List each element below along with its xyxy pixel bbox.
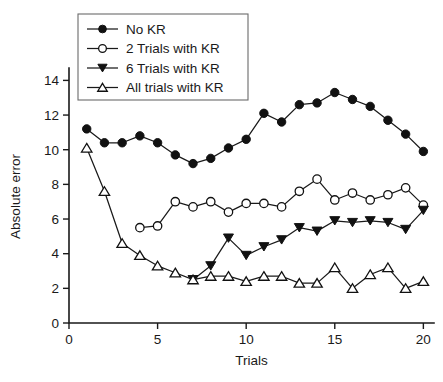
- x-axis-ticks: 05101520: [65, 323, 431, 347]
- marker-open-circle: [171, 197, 179, 205]
- marker-open-circle: [242, 199, 250, 207]
- marker-filled-circle: [419, 147, 427, 155]
- marker-open-circle: [260, 199, 268, 207]
- marker-filled-circle: [366, 102, 374, 110]
- marker-filled-circle: [331, 88, 339, 96]
- y-tick-label: 4: [51, 246, 59, 261]
- marker-open-circle: [384, 191, 392, 199]
- marker-filled-circle: [83, 125, 91, 133]
- marker-filled-circle: [384, 116, 392, 124]
- y-axis-title: Absolute error: [8, 154, 23, 239]
- marker-open-circle: [153, 222, 161, 230]
- x-tick-label: 0: [65, 332, 73, 347]
- legend-item-label: 6 Trials with KR: [126, 61, 220, 76]
- marker-filled-circle: [99, 25, 107, 33]
- absolute-error-line-chart: 05101520 02468101214 Trials Absolute err…: [0, 0, 443, 382]
- marker-open-triangle-up: [383, 263, 393, 272]
- marker-open-triangle-up: [365, 270, 375, 279]
- x-axis-title: Trials: [235, 353, 268, 368]
- x-tick-label: 5: [154, 332, 162, 347]
- marker-open-triangle-up: [135, 251, 145, 260]
- y-tick-label: 0: [51, 316, 59, 331]
- marker-open-circle: [401, 184, 409, 192]
- marker-filled-circle: [118, 139, 126, 147]
- marker-filled-triangle-down: [277, 236, 287, 244]
- marker-filled-triangle-down: [259, 243, 269, 251]
- marker-open-circle: [366, 196, 374, 204]
- marker-filled-circle: [277, 118, 285, 126]
- marker-filled-triangle-down: [312, 227, 322, 235]
- y-axis-ticks: 02468101214: [44, 73, 69, 331]
- y-tick-label: 6: [51, 212, 59, 227]
- marker-filled-circle: [207, 154, 215, 162]
- marker-open-triangle-up: [152, 261, 162, 270]
- marker-open-triangle-up: [330, 263, 340, 272]
- marker-filled-circle: [153, 139, 161, 147]
- y-tick-label: 14: [44, 73, 60, 88]
- y-tick-label: 10: [44, 143, 59, 158]
- marker-open-circle: [136, 223, 144, 231]
- marker-open-triangle-up: [117, 239, 127, 248]
- marker-open-circle: [224, 208, 232, 216]
- marker-open-circle: [348, 189, 356, 197]
- marker-open-circle: [277, 203, 285, 211]
- marker-open-triangle-up: [418, 277, 428, 286]
- y-tick-label: 8: [51, 177, 59, 192]
- marker-filled-circle: [100, 139, 108, 147]
- chart-figure: 05101520 02468101214 Trials Absolute err…: [0, 0, 443, 382]
- legend-item-label: 2 Trials with KR: [126, 41, 220, 56]
- marker-filled-circle: [401, 130, 409, 138]
- marker-filled-triangle-down: [401, 225, 411, 233]
- marker-filled-triangle-down: [241, 251, 251, 259]
- marker-open-triangle-up: [400, 284, 410, 293]
- marker-open-circle: [99, 45, 107, 53]
- marker-filled-circle: [348, 95, 356, 103]
- series-4: [82, 143, 429, 292]
- marker-open-circle: [313, 175, 321, 183]
- marker-filled-circle: [189, 159, 197, 167]
- x-tick-label: 20: [416, 332, 431, 347]
- marker-filled-circle: [295, 100, 303, 108]
- legend-item-label: No KR: [126, 22, 166, 37]
- marker-open-circle: [331, 196, 339, 204]
- x-tick-label: 15: [327, 332, 342, 347]
- y-tick-label: 2: [51, 281, 59, 296]
- chart-legend: No KR2 Trials with KR6 Trials with KRAll…: [78, 14, 248, 100]
- marker-open-triangle-up: [82, 143, 92, 152]
- marker-filled-circle: [224, 144, 232, 152]
- marker-filled-circle: [242, 135, 250, 143]
- marker-filled-circle: [313, 99, 321, 107]
- marker-filled-circle: [171, 151, 179, 159]
- marker-open-circle: [189, 203, 197, 211]
- marker-open-triangle-up: [241, 277, 251, 286]
- series-layer: [82, 88, 429, 292]
- y-tick-label: 12: [44, 108, 59, 123]
- marker-open-circle: [207, 197, 215, 205]
- x-tick-label: 10: [239, 332, 254, 347]
- series-2: [136, 175, 428, 232]
- marker-open-circle: [295, 187, 303, 195]
- marker-filled-circle: [136, 132, 144, 140]
- legend-item-label: All trials with KR: [126, 80, 224, 95]
- marker-open-triangle-up: [99, 187, 109, 196]
- marker-filled-circle: [260, 109, 268, 117]
- marker-open-triangle-up: [170, 268, 180, 277]
- plot-area: 05101520 02468101214 Trials Absolute err…: [8, 68, 434, 368]
